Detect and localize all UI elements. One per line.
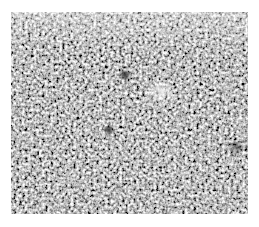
noise-texture (11, 12, 248, 214)
dark-spot-2 (103, 125, 115, 135)
noise-texture-image (11, 12, 248, 214)
light-patch (145, 78, 177, 106)
dark-spot (118, 69, 132, 81)
